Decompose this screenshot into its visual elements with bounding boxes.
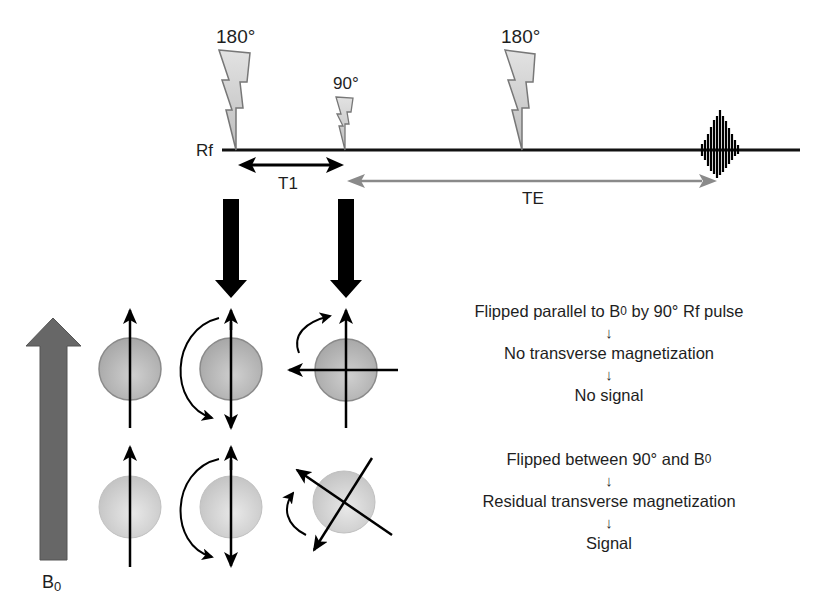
inversion-recovery-diagram: 180° 90° 180° Rf T1 TE B0 Flipped parall… — [0, 0, 818, 607]
down-arrow-icon: ↓ — [400, 322, 818, 342]
echo-signal-icon — [702, 110, 738, 178]
spin-top-after-90 — [289, 310, 398, 428]
inversion-pulse-bolt-icon — [219, 50, 250, 150]
spin-bottom-inverted — [181, 447, 262, 566]
spin-top-initial — [99, 310, 161, 428]
pulse-label-180-refocusing: 180° — [501, 27, 540, 46]
excitation-pulse-bolt-icon — [336, 97, 353, 150]
spin-top-inverted — [181, 310, 262, 428]
rf-axis-label: Rf — [196, 142, 213, 159]
down-arrow-inversion — [215, 199, 247, 298]
b0-label: B0 — [42, 573, 61, 591]
spin-bottom-initial — [99, 447, 161, 567]
description-top-line3: No signal — [400, 384, 818, 406]
pulse-label-180-inversion: 180° — [216, 27, 255, 46]
b0-label-main: B — [42, 572, 54, 592]
te-label: TE — [522, 190, 544, 207]
description-bottom-line2: Residual transverse magnetization — [400, 490, 818, 512]
description-top-line1-text: Flipped parallel to B — [474, 303, 620, 320]
description-bottom-line3: Signal — [400, 532, 818, 554]
t1-label: T1 — [278, 175, 298, 192]
description-top-line1-tail: by 90° Rf pulse — [627, 303, 744, 320]
down-arrow-icon: ↓ — [400, 470, 818, 490]
b0-label-subscript: 0 — [54, 579, 61, 594]
description-top-line1: Flipped parallel to B0 by 90° Rf pulse — [400, 300, 818, 322]
spin-bottom-after-90 — [287, 458, 392, 550]
b0-field-arrow — [26, 318, 81, 560]
description-top-line2: No transverse magnetization — [400, 342, 818, 364]
te-interval-arrow — [347, 174, 717, 188]
t1-interval-arrow — [238, 157, 344, 173]
down-arrow-icon: ↓ — [400, 512, 818, 532]
down-arrow-icon: ↓ — [400, 364, 818, 384]
refocusing-pulse-bolt-icon — [505, 50, 535, 150]
description-bottom-line1-text: Flipped between 90° and B — [507, 451, 705, 468]
description-top: Flipped parallel to B0 by 90° Rf pulse ↓… — [400, 300, 818, 406]
down-arrow-excitation — [330, 199, 362, 298]
description-bottom: Flipped between 90° and B0 ↓ Residual tr… — [400, 448, 818, 554]
description-bottom-line1: Flipped between 90° and B0 — [400, 448, 818, 470]
pulse-label-90: 90° — [333, 75, 359, 92]
